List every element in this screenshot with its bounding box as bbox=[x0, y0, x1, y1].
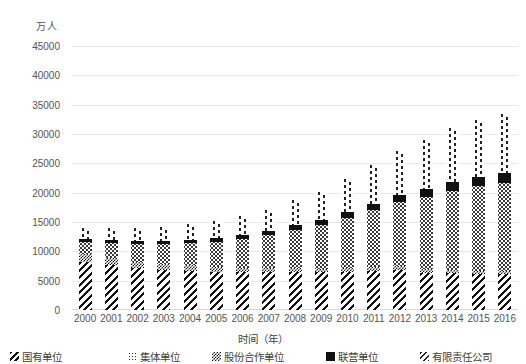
x-axis-tick-label: 2015 bbox=[468, 313, 490, 324]
bar-2004 bbox=[184, 224, 197, 310]
bar-segment-国有单位 bbox=[289, 272, 302, 310]
y-axis-tick-label: 25000 bbox=[32, 158, 60, 169]
bar-segment-有限责任公司 bbox=[315, 192, 328, 220]
legend-label: 有限责任公司 bbox=[432, 349, 492, 364]
bar-segment-国有单位 bbox=[446, 273, 459, 310]
chart-legend: 国有单位集体单位股份合作单位联营单位有限责任公司 bbox=[0, 349, 526, 364]
bar-segment-有限责任公司 bbox=[210, 221, 223, 238]
bar-segment-国有单位 bbox=[498, 274, 511, 310]
bar-segment-股份合作单位 bbox=[210, 242, 223, 267]
bar-2012 bbox=[393, 151, 406, 310]
bar-2011 bbox=[367, 165, 380, 310]
bar-2015 bbox=[472, 120, 485, 310]
y-axis-tick-label: 45000 bbox=[32, 41, 60, 52]
bar-segment-国有单位 bbox=[341, 272, 354, 310]
bar-segment-股份合作单位 bbox=[367, 210, 380, 267]
bar-segment-有限责任公司 bbox=[184, 224, 197, 240]
legend-swatch-icon bbox=[212, 352, 221, 361]
x-axis-tick-label: 2010 bbox=[336, 313, 358, 324]
x-axis-tick-label: 2009 bbox=[310, 313, 332, 324]
y-axis-tick-label: 20000 bbox=[32, 187, 60, 198]
bar-segment-股份合作单位 bbox=[289, 230, 302, 269]
bar-segment-国有单位 bbox=[157, 270, 170, 310]
bar-segment-有限责任公司 bbox=[446, 128, 459, 183]
legend-swatch-icon bbox=[326, 352, 335, 361]
bar-segment-股份合作单位 bbox=[472, 186, 485, 270]
bar-segment-股份合作单位 bbox=[131, 244, 144, 261]
bar-2003 bbox=[157, 227, 170, 310]
bar-segment-有限责任公司 bbox=[367, 165, 380, 203]
bar-segment-联营单位 bbox=[393, 195, 406, 202]
y-axis-tick-label: 30000 bbox=[32, 129, 60, 140]
bar-segment-股份合作单位 bbox=[393, 202, 406, 267]
bar-segment-联营单位 bbox=[498, 173, 511, 182]
legend-item-国有单位[interactable]: 国有单位 bbox=[10, 349, 62, 364]
bar-segment-有限责任公司 bbox=[236, 216, 249, 235]
x-axis-tick-label: 2006 bbox=[231, 313, 253, 324]
legend-item-有限责任公司[interactable]: 有限责任公司 bbox=[420, 349, 492, 364]
chart-container: 万人 0500010000150002000025000300003500040… bbox=[0, 0, 526, 364]
bar-2006 bbox=[236, 216, 249, 310]
bar-segment-国有单位 bbox=[393, 270, 406, 310]
bar-2002 bbox=[131, 228, 144, 310]
bar-segment-有限责任公司 bbox=[79, 228, 92, 239]
legend-label: 集体单位 bbox=[140, 349, 180, 364]
bar-segment-国有单位 bbox=[184, 271, 197, 310]
bar-segment-国有单位 bbox=[210, 272, 223, 310]
x-axis-tick-label: 2004 bbox=[179, 313, 201, 324]
bar-segment-有限责任公司 bbox=[341, 179, 354, 212]
x-axis-tick-label: 2001 bbox=[100, 313, 122, 324]
bar-segment-联营单位 bbox=[472, 177, 485, 186]
legend-item-股份合作单位[interactable]: 股份合作单位 bbox=[212, 349, 284, 364]
bar-segment-联营单位 bbox=[446, 182, 459, 191]
bar-segment-有限责任公司 bbox=[105, 228, 118, 240]
legend-item-联营单位[interactable]: 联营单位 bbox=[326, 349, 378, 364]
bar-segment-有限责任公司 bbox=[157, 227, 170, 241]
legend-item-集体单位[interactable]: 集体单位 bbox=[128, 349, 180, 364]
bar-segment-有限责任公司 bbox=[131, 228, 144, 241]
x-axis-title: 时间（年） bbox=[0, 331, 526, 346]
bar-segment-国有单位 bbox=[367, 271, 380, 310]
x-axis-tick-label: 2005 bbox=[205, 313, 227, 324]
bar-2005 bbox=[210, 221, 223, 310]
legend-label: 股份合作单位 bbox=[224, 349, 284, 364]
bar-2001 bbox=[105, 228, 118, 310]
x-axis-tick-label: 2012 bbox=[389, 313, 411, 324]
bar-segment-股份合作单位 bbox=[236, 239, 249, 268]
bar-segment-国有单位 bbox=[315, 272, 328, 310]
bar-2013 bbox=[420, 140, 433, 310]
x-axis-tick-label: 2013 bbox=[415, 313, 437, 324]
bar-2010 bbox=[341, 179, 354, 310]
y-axis-tick-label: 35000 bbox=[32, 99, 60, 110]
bar-segment-有限责任公司 bbox=[420, 140, 433, 189]
y-axis-tick-label: 0 bbox=[54, 305, 60, 316]
x-axis-tick-label: 2008 bbox=[284, 313, 306, 324]
bar-2008 bbox=[289, 200, 302, 310]
plot-area bbox=[72, 46, 518, 310]
bar-2000 bbox=[79, 228, 92, 310]
bar-segment-国有单位 bbox=[262, 272, 275, 310]
bar-segment-有限责任公司 bbox=[393, 151, 406, 194]
bar-segment-股份合作单位 bbox=[262, 235, 275, 268]
bar-segment-国有单位 bbox=[131, 268, 144, 310]
bar-2009 bbox=[315, 192, 328, 310]
bar-segment-股份合作单位 bbox=[184, 243, 197, 265]
bar-segment-股份合作单位 bbox=[498, 183, 511, 272]
x-axis-tick-label: 2014 bbox=[441, 313, 463, 324]
bar-segment-股份合作单位 bbox=[105, 243, 118, 258]
bar-segment-国有单位 bbox=[236, 272, 249, 310]
bar-segment-国有单位 bbox=[105, 265, 118, 310]
bar-segment-有限责任公司 bbox=[472, 120, 485, 177]
x-axis-tick-label: 2007 bbox=[258, 313, 280, 324]
legend-swatch-icon bbox=[10, 352, 19, 361]
legend-swatch-icon bbox=[128, 352, 137, 361]
bar-segment-股份合作单位 bbox=[79, 242, 92, 254]
bar-2016 bbox=[498, 114, 511, 310]
bar-segment-集体单位 bbox=[79, 254, 92, 262]
bar-segment-股份合作单位 bbox=[341, 218, 354, 268]
y-axis-unit-label: 万人 bbox=[36, 18, 57, 33]
y-axis-tick-label: 5000 bbox=[38, 275, 60, 286]
bar-segment-股份合作单位 bbox=[315, 225, 328, 269]
x-axis-tick-label: 2002 bbox=[126, 313, 148, 324]
bar-segment-有限责任公司 bbox=[289, 200, 302, 225]
